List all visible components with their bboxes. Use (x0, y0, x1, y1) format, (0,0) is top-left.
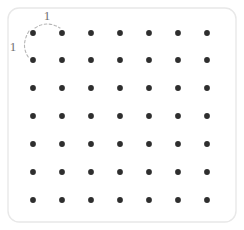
lattice-dot (88, 30, 94, 36)
lattice-dot (88, 197, 94, 203)
lattice-dot (175, 113, 181, 119)
lattice-dot (88, 85, 94, 91)
lattice-dot (59, 85, 65, 91)
lattice-dot (117, 85, 123, 91)
lattice-dot (204, 113, 210, 119)
lattice-dot (204, 197, 210, 203)
lattice-dot (30, 113, 36, 119)
lattice-dot (175, 30, 181, 36)
vertical-unit-label: 1 (10, 39, 17, 54)
lattice-dot (146, 57, 152, 63)
lattice-dot (30, 57, 36, 63)
lattice-dot (204, 57, 210, 63)
lattice-dot (117, 57, 123, 63)
lattice-dot (117, 169, 123, 175)
lattice-dot (146, 197, 152, 203)
lattice-dot (146, 30, 152, 36)
lattice-dot (59, 169, 65, 175)
lattice-dot (204, 30, 210, 36)
lattice-dot (59, 57, 65, 63)
lattice-dot (59, 30, 65, 36)
lattice-dot (204, 169, 210, 175)
lattice-diagram-canvas: 1 1 (0, 0, 244, 230)
lattice-dot (146, 113, 152, 119)
lattice-dot (117, 30, 123, 36)
lattice-dot (175, 57, 181, 63)
lattice-dot (146, 169, 152, 175)
lattice-dot (88, 141, 94, 147)
lattice-dot (146, 85, 152, 91)
lattice-figure: 1 1 (0, 0, 244, 230)
lattice-dot (59, 141, 65, 147)
lattice-dot (117, 141, 123, 147)
lattice-dot (59, 113, 65, 119)
lattice-dot (175, 197, 181, 203)
lattice-dot (88, 113, 94, 119)
lattice-dot (175, 85, 181, 91)
lattice-dot (30, 141, 36, 147)
lattice-dot (59, 197, 65, 203)
lattice-dot (175, 141, 181, 147)
lattice-dot (88, 169, 94, 175)
lattice-dot (117, 113, 123, 119)
lattice-dot (204, 85, 210, 91)
lattice-dot (30, 169, 36, 175)
lattice-dot (204, 141, 210, 147)
horizontal-unit-label: 1 (44, 8, 51, 23)
lattice-dot (30, 85, 36, 91)
lattice-dot (30, 197, 36, 203)
lattice-dot (30, 30, 36, 36)
lattice-dot (146, 141, 152, 147)
lattice-dot (175, 169, 181, 175)
lattice-dot (88, 57, 94, 63)
lattice-dot (117, 197, 123, 203)
